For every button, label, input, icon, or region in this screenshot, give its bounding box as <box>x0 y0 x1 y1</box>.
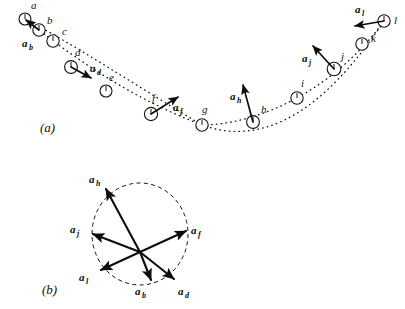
svg-text:h: h <box>237 96 242 105</box>
vector-label-a-j-panel-a: a j <box>302 52 312 67</box>
point-label-c: c <box>62 25 67 37</box>
point-label-a: a <box>31 0 37 11</box>
svg-text:l: l <box>362 9 365 18</box>
svg-text:d: d <box>97 68 102 77</box>
svg-text:a: a <box>191 224 197 236</box>
svg-text:a: a <box>70 223 76 235</box>
svg-text:a: a <box>89 173 95 185</box>
point-label-k: k <box>371 32 377 44</box>
svg-text:a: a <box>355 3 361 15</box>
svg-text:a: a <box>230 90 236 102</box>
point-label-b: b <box>47 14 53 26</box>
panel-b: a h a f a j a l a b a d (b) <box>42 173 202 300</box>
svg-text:f: f <box>198 230 202 239</box>
svg-text:a: a <box>22 37 28 49</box>
vector-label-a-f-panel-b: a f <box>191 224 202 239</box>
vector-label-a-b-panel-a: a b <box>22 37 33 52</box>
svg-text:a: a <box>178 285 184 297</box>
svg-text:f: f <box>180 107 184 116</box>
vector-a-l-panel-b <box>101 252 140 270</box>
vector-a-f-panel-b <box>140 231 186 252</box>
svg-text:a: a <box>173 101 179 113</box>
svg-text:b: b <box>29 43 33 52</box>
point-label-j: j <box>339 50 344 62</box>
ball-c <box>47 35 59 47</box>
vector-label-a-h-panel-b: a h <box>89 173 101 188</box>
point-label-g: g <box>202 103 208 115</box>
vector-label-a-l-panel-b: a l <box>79 271 89 286</box>
figure-page: a b c d e f g h i j k l a b a <box>0 0 405 309</box>
vector-a-h-panel-b <box>106 189 140 252</box>
svg-text:d: d <box>185 291 190 300</box>
constant-magnitude-circle <box>92 183 188 285</box>
svg-text:j: j <box>307 58 312 67</box>
svg-text:h: h <box>96 179 101 188</box>
point-label-h: h <box>261 103 267 115</box>
point-label-l: l <box>394 14 397 26</box>
svg-text:b: b <box>142 291 146 300</box>
svg-text:a: a <box>302 52 308 64</box>
vector-label-a-d-panel-a: a d <box>90 62 102 77</box>
vector-label-a-b-panel-b: a b <box>135 285 146 300</box>
point-label-i: i <box>301 77 304 89</box>
physics-figure: a b c d e f g h i j k l a b a <box>0 0 405 309</box>
vector-label-a-l-panel-a: a l <box>355 3 365 18</box>
svg-text:a: a <box>79 271 85 283</box>
ball-e <box>100 85 112 97</box>
vector-label-a-j-panel-b: a j <box>70 223 80 238</box>
point-label-e: e <box>109 71 114 83</box>
panel-a: a b c d e f g h i j k l a b a <box>19 0 397 135</box>
vector-label-a-h-panel-a: a h <box>230 90 242 105</box>
svg-text:a: a <box>90 62 96 74</box>
point-label-f: f <box>152 92 157 104</box>
panel-a-label: (a) <box>40 120 55 135</box>
vector-a-j-panel-b <box>93 234 140 252</box>
ball-k <box>356 38 368 50</box>
svg-text:j: j <box>75 229 80 238</box>
vector-label-a-d-panel-b: a d <box>178 285 190 300</box>
point-label-d: d <box>75 46 81 58</box>
panel-b-label: (b) <box>42 282 57 297</box>
trajectory-path-right <box>202 21 384 125</box>
ball-i <box>291 92 303 104</box>
svg-text:a: a <box>135 285 141 297</box>
ball-g <box>196 119 208 131</box>
vector-a-h-panel-a <box>243 85 253 122</box>
svg-text:l: l <box>86 277 89 286</box>
vector-a-j-panel-a <box>313 46 334 69</box>
